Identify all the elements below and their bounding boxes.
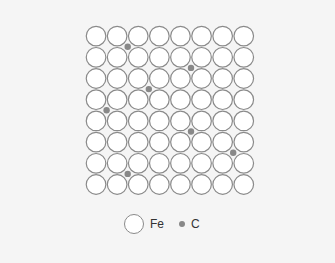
fe-atom: [128, 48, 148, 68]
fe-atom: [150, 69, 170, 89]
fe-atom: [150, 26, 170, 46]
fe-atom: [150, 111, 170, 131]
fe-atom: [192, 175, 212, 195]
carbon-atom: [188, 65, 194, 71]
fe-atom: [171, 132, 191, 152]
fe-atom: [234, 175, 254, 195]
fe-atom: [171, 111, 191, 131]
fe-atom: [150, 132, 170, 152]
fe-atom: [107, 69, 127, 89]
legend: Fe C: [124, 212, 200, 236]
fe-atom: [128, 175, 148, 195]
fe-atom: [234, 154, 254, 174]
fe-atom: [107, 111, 127, 131]
fe-atom: [234, 90, 254, 110]
fe-atom: [192, 69, 212, 89]
fe-atom: [234, 69, 254, 89]
fe-atom: [128, 69, 148, 89]
fe-atom-grid: [86, 26, 253, 194]
carbon-atom: [188, 128, 194, 134]
fe-atom: [86, 111, 106, 131]
legend-label-fe: Fe: [150, 217, 164, 231]
fe-atom: [128, 26, 148, 46]
fe-atom: [150, 48, 170, 68]
fe-atom: [150, 154, 170, 174]
fe-atom: [128, 154, 148, 174]
fe-atom: [86, 26, 106, 46]
fe-atom: [107, 48, 127, 68]
legend-label-c: C: [191, 217, 200, 231]
fe-atom: [213, 90, 233, 110]
carbon-atom: [125, 171, 131, 177]
fe-atom: [86, 90, 106, 110]
fe-atom: [213, 111, 233, 131]
fe-atom: [107, 132, 127, 152]
fe-atom: [192, 111, 212, 131]
fe-atom: [86, 154, 106, 174]
fe-atom: [171, 26, 191, 46]
fe-atom: [213, 69, 233, 89]
fe-atom: [128, 90, 148, 110]
fe-atom: [234, 26, 254, 46]
fe-atom: [192, 154, 212, 174]
fe-atom: [234, 111, 254, 131]
fe-atom: [150, 175, 170, 195]
fe-atom: [213, 48, 233, 68]
fe-atom: [234, 132, 254, 152]
fe-atom: [107, 26, 127, 46]
carbon-atom: [146, 86, 152, 92]
fe-atom: [213, 175, 233, 195]
fe-atom: [171, 48, 191, 68]
fe-atom: [213, 26, 233, 46]
carbon-atom: [103, 107, 109, 113]
fe-atom: [192, 26, 212, 46]
fe-atom: [234, 48, 254, 68]
fe-atom: [192, 48, 212, 68]
fe-atom: [150, 90, 170, 110]
fe-atom: [171, 90, 191, 110]
carbon-atom: [125, 44, 131, 50]
fe-atom: [107, 90, 127, 110]
fe-atom: [86, 48, 106, 68]
fe-atom: [171, 175, 191, 195]
fe-atom: [107, 154, 127, 174]
fe-atom: [213, 154, 233, 174]
fe-atom: [171, 154, 191, 174]
fe-atom: [86, 175, 106, 195]
fe-atom: [86, 69, 106, 89]
fe-atom: [128, 132, 148, 152]
c-legend-icon: [179, 221, 185, 227]
fe-atom: [107, 175, 127, 195]
fe-atom: [213, 132, 233, 152]
fe-atom: [171, 69, 191, 89]
fe-atom: [86, 132, 106, 152]
fe-atom: [192, 90, 212, 110]
fe-atom: [128, 111, 148, 131]
fe-atom: [192, 132, 212, 152]
fe-legend-icon: [124, 214, 144, 234]
carbon-atom: [230, 150, 236, 156]
